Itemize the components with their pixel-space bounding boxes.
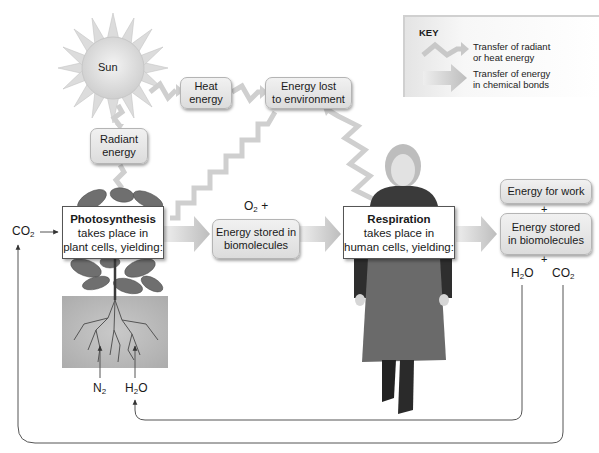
h2o-output-right: H2O (511, 266, 533, 281)
heat-energy-box: Heat energy (180, 77, 232, 109)
respiration-box: Respiration takes place in human cells, … (343, 206, 455, 259)
zigzag-arrow-icon (421, 39, 469, 61)
block-arrow-icon (421, 64, 469, 92)
person-illustration (354, 144, 452, 414)
h2o-input-bottom: H2O (125, 381, 147, 396)
energy-stored-biomolecules-box: Energy stored in biomolecules (212, 219, 300, 259)
key-item-radiant: Transfer of radiant or heat energy (473, 41, 550, 63)
sun-label: Sun (98, 61, 118, 73)
radiant-energy-box: Radiant energy (90, 128, 148, 164)
energy-for-work-box: Energy for work (500, 179, 592, 204)
energy-stored-right-box: Energy stored in biomolecules (500, 213, 592, 255)
co2-input-left: CO2 (12, 224, 34, 239)
photosynthesis-box: Photosynthesis takes place in plant cell… (62, 206, 164, 259)
energy-lost-box: Energy lost to environment (265, 77, 352, 109)
key-legend: KEY Transfer of radiant or heat energy T… (403, 15, 599, 97)
key-title: KEY (419, 27, 439, 38)
plus-sign-1: + (541, 203, 547, 215)
plus-sign-2: + (541, 253, 547, 265)
n2-input: N2 (93, 381, 106, 396)
key-item-chemical: Transfer of energy in chemical bonds (473, 68, 550, 90)
co2-output-right: CO2 (552, 266, 574, 281)
o2-output: O2 + (244, 199, 268, 214)
